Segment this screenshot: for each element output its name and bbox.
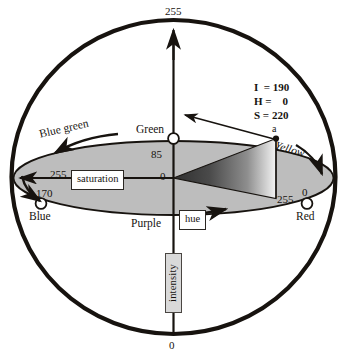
red-point-marker [302, 198, 313, 209]
purple-sector-label: Purple [131, 218, 161, 230]
red-point-label: Red [296, 211, 315, 223]
intensity-min-label: 0 [169, 340, 175, 351]
intensity-axis-label-text: intensity [168, 264, 179, 302]
green-tick-value: 85 [151, 149, 162, 160]
callout-line-hue: H = 0 [254, 95, 288, 107]
callout-values: I = 190H = 0S = 220 [254, 80, 289, 122]
hsi-color-model-figure: 255 0 85 0 255 170 0 255 Green Blue Red … [0, 0, 344, 357]
saturation-axis-label-box: saturation [71, 170, 124, 190]
callout-line-saturation: S = 220 [254, 109, 288, 121]
red-point-value-alt: 255 [277, 194, 294, 205]
blue-point-label: Blue [29, 211, 51, 223]
green-point-marker [168, 133, 179, 144]
hue-axis-label-box: hue [179, 210, 206, 230]
blue-point-value: 170 [36, 188, 53, 199]
intensity-axis-label-box: intensity [165, 253, 182, 313]
callout-line-intensity: I = 190 [254, 81, 289, 93]
saturation-max-value: 255 [50, 169, 67, 180]
red-point-value: 0 [302, 187, 308, 198]
point-a-label: a [272, 124, 276, 134]
green-point-label: Green [136, 124, 164, 136]
plane-center-value: 0 [160, 171, 166, 182]
intensity-max-label: 255 [165, 6, 182, 17]
